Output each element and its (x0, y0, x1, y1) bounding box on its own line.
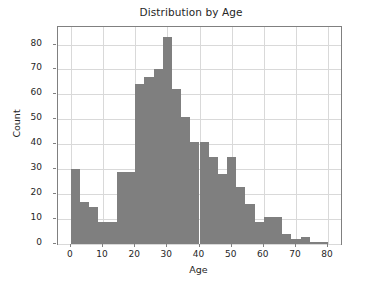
x-tick-label: 70 (280, 249, 310, 259)
y-tick-mark (53, 193, 56, 194)
x-tick-mark (295, 244, 296, 247)
histogram-bar (71, 169, 80, 244)
x-tick-mark (231, 244, 232, 247)
histogram-bar (301, 237, 310, 244)
histogram-bar (135, 84, 144, 244)
x-tick-label: 50 (216, 249, 246, 259)
x-tick-label: 80 (312, 249, 342, 259)
y-tick-label: 70 (2, 62, 42, 72)
histogram-bar (163, 37, 172, 244)
histogram-bar (108, 222, 117, 244)
histogram-bar (273, 217, 282, 244)
x-tick-label: 0 (55, 249, 85, 259)
y-tick-mark (53, 44, 56, 45)
histogram-bar (144, 77, 153, 244)
histogram-bar (98, 222, 107, 244)
y-tick-mark (53, 168, 56, 169)
y-tick-label: 30 (2, 162, 42, 172)
histogram-bar (172, 89, 181, 244)
histogram-bar (154, 69, 163, 244)
x-tick-mark (263, 244, 264, 247)
histogram-bar (181, 117, 190, 244)
histogram-bar (227, 157, 236, 244)
histogram-bar (209, 157, 218, 244)
x-tick-label: 20 (119, 249, 149, 259)
histogram-bar (190, 142, 199, 244)
chart-figure: Distribution by Age 01020304050607080010… (0, 0, 382, 288)
y-tick-label: 0 (2, 237, 42, 247)
x-tick-label: 40 (184, 249, 214, 259)
y-tick-label: 10 (2, 212, 42, 222)
histogram-bar (117, 172, 126, 244)
y-axis-label: Count (11, 94, 22, 154)
x-tick-label: 60 (248, 249, 278, 259)
histogram-bars (58, 27, 341, 244)
x-tick-mark (199, 244, 200, 247)
y-tick-label: 50 (2, 112, 42, 122)
x-tick-mark (102, 244, 103, 247)
histogram-bar (89, 207, 98, 244)
x-axis-label: Age (57, 264, 340, 275)
histogram-bar (126, 172, 135, 244)
y-tick-label: 60 (2, 87, 42, 97)
histogram-bar (282, 234, 291, 244)
gridline-horizontal (58, 244, 341, 245)
histogram-bar (310, 242, 319, 244)
x-tick-mark (166, 244, 167, 247)
x-tick-label: 10 (87, 249, 117, 259)
y-tick-mark (53, 218, 56, 219)
histogram-bar (200, 142, 209, 244)
y-tick-label: 80 (2, 38, 42, 48)
x-tick-mark (70, 244, 71, 247)
histogram-bar (218, 174, 227, 244)
y-tick-mark (53, 243, 56, 244)
chart-title: Distribution by Age (0, 6, 382, 18)
y-tick-label: 20 (2, 187, 42, 197)
histogram-bar (255, 222, 264, 244)
y-tick-mark (53, 143, 56, 144)
x-tick-label: 30 (151, 249, 181, 259)
x-tick-mark (134, 244, 135, 247)
y-tick-label: 40 (2, 137, 42, 147)
plot-area (57, 26, 342, 245)
histogram-bar (236, 187, 245, 244)
x-tick-mark (327, 244, 328, 247)
histogram-bar (80, 202, 89, 244)
histogram-bar (264, 217, 273, 244)
y-tick-mark (53, 118, 56, 119)
histogram-bar (245, 204, 254, 244)
y-tick-mark (53, 93, 56, 94)
y-tick-mark (53, 68, 56, 69)
